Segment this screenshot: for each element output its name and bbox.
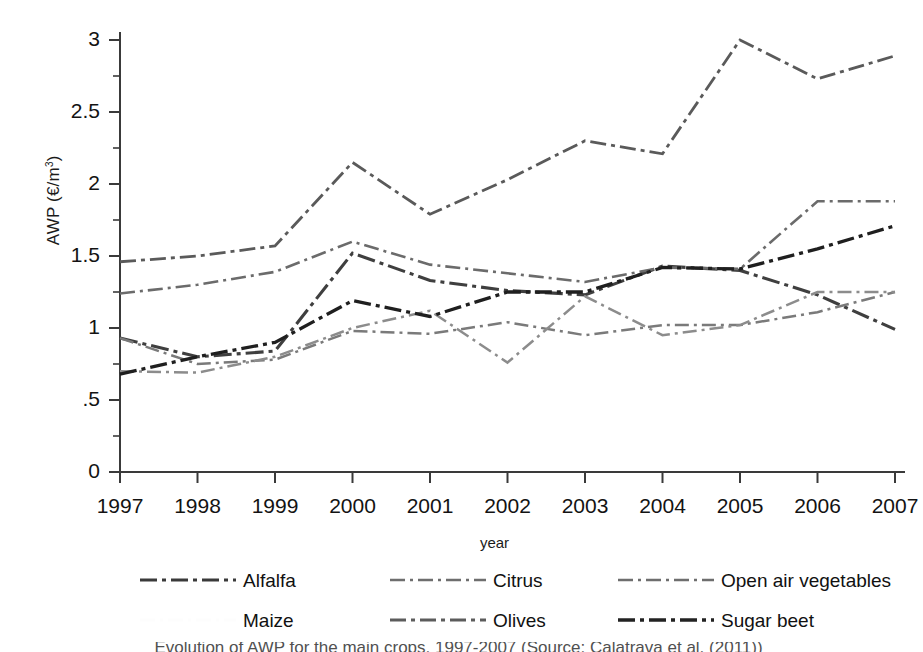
figure-caption-clip: Evolution of AWP for the main crops, 199… bbox=[0, 642, 917, 652]
series-line-alfalfa bbox=[120, 253, 895, 357]
series-line-citrus bbox=[120, 201, 895, 293]
series-line-open-air-vegetables bbox=[120, 292, 895, 364]
axis-lines bbox=[120, 32, 905, 472]
figure-caption: Evolution of AWP for the main crops, 199… bbox=[0, 642, 917, 652]
x-tick-label: 2006 bbox=[775, 495, 861, 516]
y-tick-label: 3 bbox=[28, 28, 100, 49]
x-tick-label: 2001 bbox=[387, 495, 473, 516]
x-tick-label: 1997 bbox=[77, 495, 163, 516]
series-line-sugar-beet bbox=[120, 226, 895, 374]
x-tick-label: 2000 bbox=[310, 495, 396, 516]
legend-dash-openair-icon bbox=[618, 574, 714, 586]
legend-item-sugar-beet[interactable]: Sugar beet bbox=[618, 600, 814, 640]
y-tick-label: 1 bbox=[28, 316, 100, 337]
legend-dash-alfalfa-icon bbox=[140, 574, 236, 586]
series-line-maize bbox=[120, 292, 895, 373]
x-tick-label: 1999 bbox=[232, 495, 318, 516]
series-lines bbox=[120, 40, 895, 374]
y-axis-title-exponent: 3 bbox=[44, 161, 55, 167]
y-axis-title: AWP (€/m3) bbox=[44, 100, 65, 300]
x-tick-label: 1998 bbox=[155, 495, 241, 516]
legend-label: Citrus bbox=[493, 571, 543, 590]
legend-item-alfalfa[interactable]: Alfalfa bbox=[140, 560, 296, 600]
chart-canvas bbox=[0, 0, 917, 560]
legend-item-open-air-vegetables[interactable]: Open air vegetables bbox=[618, 560, 891, 600]
y-tick-label: 1.5 bbox=[28, 244, 100, 265]
legend-item-olives[interactable]: Olives bbox=[390, 600, 546, 640]
x-tick-label: 2004 bbox=[620, 495, 706, 516]
chart-legend: AlfalfaCitrusOpen air vegetables MaizeOl… bbox=[0, 556, 917, 652]
y-tick-label: 2.5 bbox=[28, 100, 100, 121]
x-axis-title-text: year bbox=[480, 534, 509, 551]
legend-label: Open air vegetables bbox=[721, 571, 891, 590]
axis-ticks bbox=[109, 40, 895, 483]
legend-item-citrus[interactable]: Citrus bbox=[390, 560, 543, 600]
x-tick-label: 2007 bbox=[852, 495, 923, 516]
legend-dash-citrus-icon bbox=[390, 574, 486, 586]
legend-item-maize[interactable]: Maize bbox=[140, 600, 294, 640]
legend-label: Maize bbox=[243, 611, 294, 630]
x-axis-title: year bbox=[0, 534, 917, 551]
x-tick-label: 2003 bbox=[542, 495, 628, 516]
legend-dash-maize-icon bbox=[140, 614, 236, 626]
x-tick-label: 2005 bbox=[697, 495, 783, 516]
legend-row: MaizeOlivesSugar beet bbox=[0, 600, 917, 640]
legend-dash-sugarbeet-icon bbox=[618, 614, 714, 626]
series-line-olives bbox=[120, 40, 895, 262]
legend-label: Sugar beet bbox=[721, 611, 814, 630]
legend-label: Olives bbox=[493, 611, 546, 630]
y-tick-label: 0 bbox=[28, 460, 100, 481]
legend-row: AlfalfaCitrusOpen air vegetables bbox=[0, 560, 917, 600]
y-axis-title-tail: ) bbox=[44, 155, 63, 161]
legend-dash-olives-icon bbox=[390, 614, 486, 626]
plot-area: AWP (€/m3) 0.511.522.53 1997199819992000… bbox=[0, 0, 917, 560]
y-tick-label: .5 bbox=[28, 388, 100, 409]
y-tick-label: 2 bbox=[28, 172, 100, 193]
legend-label: Alfalfa bbox=[243, 571, 296, 590]
x-tick-label: 2002 bbox=[465, 495, 551, 516]
